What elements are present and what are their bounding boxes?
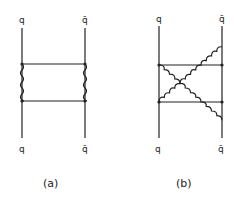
label-b-top-left: q xyxy=(156,14,162,24)
wavy-boson-crossed-2 xyxy=(159,47,222,102)
panel-b-crossed-box-diagram xyxy=(159,26,222,138)
label-a-top-left: q xyxy=(19,15,25,25)
label-a-bottom-left: q xyxy=(19,144,25,154)
panel-a-box-diagram xyxy=(21,28,87,138)
label-b-bottom-right: q̄ xyxy=(218,144,224,154)
caption-a: (a) xyxy=(43,177,58,190)
vertex-dots-b xyxy=(157,63,223,103)
label-a-top-right: q̄ xyxy=(82,15,88,25)
label-b-top-right: q̄ xyxy=(219,14,225,24)
label-b-bottom-left: q xyxy=(155,144,161,154)
vertex-dots-a xyxy=(20,62,86,102)
feynman-diagram-figure: q q̄ q q̄ (a) q q̄ q q̄ (b) xyxy=(0,0,234,202)
caption-b: (b) xyxy=(176,177,192,190)
label-a-bottom-right: q̄ xyxy=(82,144,88,154)
